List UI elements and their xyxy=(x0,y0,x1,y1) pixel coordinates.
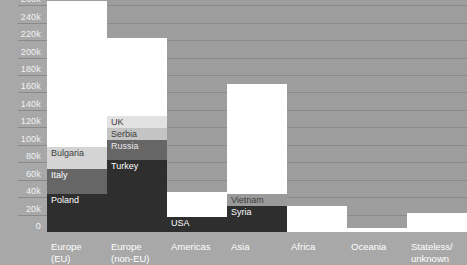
y-tick-label: 60k xyxy=(26,170,41,179)
bar-segment[interactable]: UK xyxy=(107,116,167,128)
x-axis: Europe (EU)Europe (non-EU)AmericasAsiaAf… xyxy=(0,232,467,265)
y-tick-rule xyxy=(18,145,47,146)
bar-segment[interactable] xyxy=(407,213,467,232)
bar-series: PolandItalyBulgariaTurkeyRussiaSerbiaUKU… xyxy=(47,0,467,232)
y-tick-label: 220k xyxy=(21,30,41,39)
y-tick-rule xyxy=(18,92,47,93)
y-tick-rule xyxy=(18,127,47,128)
y-tick-rule xyxy=(18,40,47,41)
y-tick-rule xyxy=(18,58,47,59)
bar-stateless-unknown[interactable] xyxy=(407,213,467,232)
segment-label: Syria xyxy=(231,207,252,217)
segment-label: Turkey xyxy=(111,161,138,171)
y-tick-rule xyxy=(18,5,47,6)
x-axis-label: Stateless/ unknown xyxy=(411,241,467,264)
y-axis: 260k240k220k200k180k160k140k120k100k80k6… xyxy=(0,0,47,232)
bar-segment[interactable]: USA xyxy=(167,217,227,232)
stacked-bar-chart: 260k240k220k200k180k160k140k120k100k80k6… xyxy=(0,0,467,265)
bar-segment[interactable]: Italy xyxy=(47,169,107,193)
bar-segment[interactable] xyxy=(227,84,287,194)
segment-label: Italy xyxy=(51,170,68,180)
bar-segment[interactable]: Syria xyxy=(227,206,287,232)
y-tick-label: 40k xyxy=(26,187,41,196)
y-tick-rule xyxy=(18,75,47,76)
bar-asia[interactable]: SyriaVietnam xyxy=(227,84,287,232)
bar-europe-non-eu[interactable]: TurkeyRussiaSerbiaUK xyxy=(107,38,167,232)
bar-segment[interactable] xyxy=(107,38,167,116)
bar-africa[interactable] xyxy=(287,206,347,232)
plot-area: PolandItalyBulgariaTurkeyRussiaSerbiaUKU… xyxy=(47,0,467,232)
y-tick-rule xyxy=(18,23,47,24)
segment-label: UK xyxy=(111,117,124,127)
y-tick-rule xyxy=(18,215,47,216)
segment-label: Bulgaria xyxy=(51,148,84,158)
segment-label: Russia xyxy=(111,141,139,151)
y-tick-rule xyxy=(18,180,47,181)
segment-label: Poland xyxy=(51,195,79,205)
y-tick-label: 180k xyxy=(21,65,41,74)
bar-segment[interactable]: Serbia xyxy=(107,128,167,139)
segment-label: Serbia xyxy=(111,129,137,139)
bar-americas[interactable]: USA xyxy=(167,192,227,232)
y-tick-label: 160k xyxy=(21,82,41,91)
segment-label: Vietnam xyxy=(231,195,264,205)
y-tick-label: 140k xyxy=(21,100,41,109)
segment-label: USA xyxy=(171,218,190,228)
bar-segment[interactable] xyxy=(167,192,227,217)
bar-segment[interactable]: Russia xyxy=(107,140,167,160)
bar-segment[interactable] xyxy=(47,1,107,148)
bar-segment[interactable]: Turkey xyxy=(107,160,167,232)
y-tick-label: 20k xyxy=(26,205,41,214)
bar-segment[interactable]: Bulgaria xyxy=(47,147,107,169)
y-tick-rule xyxy=(18,162,47,163)
bar-segment[interactable]: Poland xyxy=(47,194,107,232)
y-tick-label: 200k xyxy=(21,48,41,57)
bar-segment[interactable] xyxy=(287,206,347,232)
y-tick-label: 80k xyxy=(26,152,41,161)
bar-segment[interactable]: Vietnam xyxy=(227,194,287,206)
y-tick-rule xyxy=(18,110,47,111)
y-tick-rule xyxy=(18,197,47,198)
y-tick-label: 100k xyxy=(21,135,41,144)
y-tick-label: 240k xyxy=(21,13,41,22)
y-tick-label: 260k xyxy=(21,0,41,4)
bar-europe-eu[interactable]: PolandItalyBulgaria xyxy=(47,1,107,232)
y-tick-label: 120k xyxy=(21,117,41,126)
y-tick-label: 0 xyxy=(36,222,41,231)
